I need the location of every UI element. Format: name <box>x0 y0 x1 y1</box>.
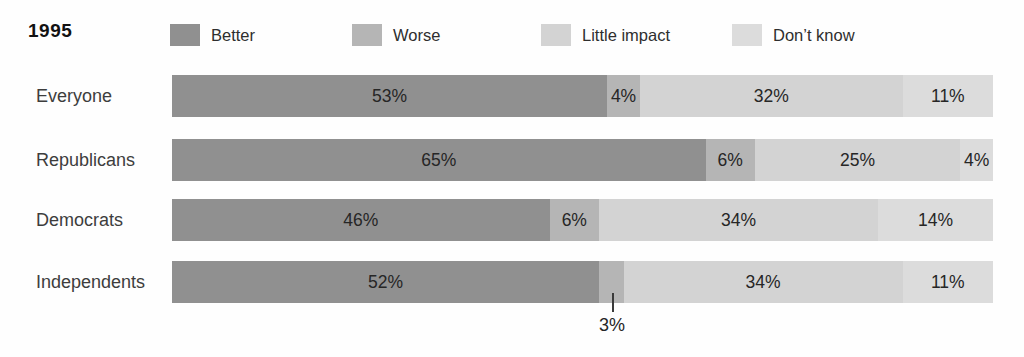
segment-value-label: 6% <box>562 210 587 231</box>
segment-little-impact: 25% <box>755 139 960 181</box>
legend-item-dont-know: Don’t know <box>732 24 855 46</box>
legend-label-worse: Worse <box>393 26 440 45</box>
legend-label-better: Better <box>211 26 255 45</box>
segment-dont-know: 4% <box>960 139 993 181</box>
segment-value-label: 4% <box>964 150 989 171</box>
segment-little-impact: 32% <box>640 75 903 117</box>
segment-value-label: 25% <box>840 150 875 171</box>
segment-better: 46% <box>172 199 550 241</box>
segment-better: 52% <box>172 261 599 303</box>
segment-worse: 6% <box>550 199 599 241</box>
legend-swatch-little-impact <box>541 24 571 46</box>
chart-row-democrats: Democrats 46% 6% 34% 14% <box>0 199 1024 241</box>
segment-value-label: 11% <box>931 272 965 293</box>
legend-item-little-impact: Little impact <box>541 24 670 46</box>
callout-leader-line <box>612 293 614 312</box>
category-label-republicans: Republicans <box>36 139 135 181</box>
segment-value-label: 34% <box>746 272 781 293</box>
stacked-bar-republicans: 65% 6% 25% 4% <box>172 139 993 181</box>
segment-little-impact: 34% <box>599 199 878 241</box>
legend-item-better: Better <box>170 24 255 46</box>
stacked-bar-everyone: 53% 4% 32% 11% <box>172 75 993 117</box>
chart-row-republicans: Republicans 65% 6% 25% 4% <box>0 139 1024 181</box>
segment-dont-know: 11% <box>903 261 993 303</box>
callout-value-label: 3% <box>599 315 625 336</box>
legend-swatch-dont-know <box>732 24 762 46</box>
stacked-bar-chart: 1995 Better Worse Little impact Don’t kn… <box>0 0 1024 357</box>
segment-value-label: 32% <box>754 86 789 107</box>
legend-item-worse: Worse <box>352 24 440 46</box>
segment-little-impact: 34% <box>624 261 903 303</box>
segment-value-label: 46% <box>343 210 378 231</box>
category-label-everyone: Everyone <box>36 75 112 117</box>
legend-swatch-worse <box>352 24 382 46</box>
category-label-independents: Independents <box>36 261 145 303</box>
legend-swatch-better <box>170 24 200 46</box>
segment-worse: 4% <box>607 75 640 117</box>
segment-better: 65% <box>172 139 706 181</box>
segment-value-label: 6% <box>718 150 743 171</box>
stacked-bar-independents: 52% 34% 11% <box>172 261 993 303</box>
chart-row-independents: Independents 52% 34% 11% <box>0 261 1024 303</box>
chart-year-title: 1995 <box>28 20 72 42</box>
segment-dont-know: 11% <box>903 75 993 117</box>
segment-dont-know: 14% <box>878 199 993 241</box>
segment-better: 53% <box>172 75 607 117</box>
segment-value-label: 53% <box>372 86 407 107</box>
segment-value-label: 4% <box>611 86 636 107</box>
segment-value-label: 11% <box>931 86 965 107</box>
segment-worse: 6% <box>706 139 755 181</box>
category-label-democrats: Democrats <box>36 199 123 241</box>
segment-value-label: 14% <box>918 210 953 231</box>
segment-value-label: 52% <box>368 272 403 293</box>
chart-row-everyone: Everyone 53% 4% 32% 11% <box>0 75 1024 117</box>
stacked-bar-democrats: 46% 6% 34% 14% <box>172 199 993 241</box>
segment-value-label: 65% <box>421 150 456 171</box>
legend: 1995 Better Worse Little impact Don’t kn… <box>0 18 1024 52</box>
segment-value-label: 34% <box>721 210 756 231</box>
legend-label-little-impact: Little impact <box>582 26 670 45</box>
legend-label-dont-know: Don’t know <box>773 26 855 45</box>
